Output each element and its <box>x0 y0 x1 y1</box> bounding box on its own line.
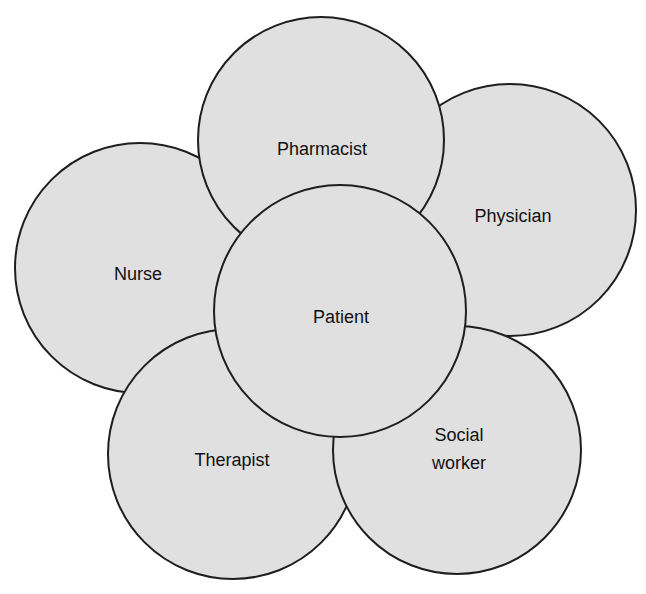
patient-label: Patient <box>313 307 369 327</box>
therapist-label: Therapist <box>194 450 269 470</box>
physician-label: Physician <box>474 206 551 226</box>
care-team-diagram: Nurse Physician Pharmacist Therapist Soc… <box>0 0 646 594</box>
social-worker-label-line1: Social <box>434 425 483 445</box>
pharmacist-label: Pharmacist <box>277 139 367 159</box>
social-worker-label-line2: worker <box>431 453 486 473</box>
circle-patient: Patient <box>214 185 466 437</box>
nurse-label: Nurse <box>114 264 162 284</box>
